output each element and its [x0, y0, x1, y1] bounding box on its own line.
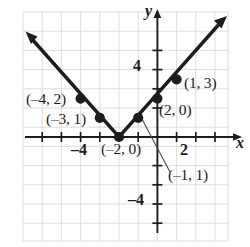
- point-label-neg4-2: (–4, 2): [26, 90, 66, 108]
- point-label-2-0: (2, 0): [159, 101, 191, 119]
- coordinate-plane: [0, 0, 250, 247]
- point-neg4-2: [76, 94, 86, 104]
- point-neg3-1: [95, 113, 105, 123]
- curve-arrowheads: [26, 16, 228, 44]
- point-neg1-1: [133, 113, 143, 123]
- point-label-neg1-1: (–1, 1): [168, 166, 208, 184]
- x-axis-label: x: [236, 134, 244, 152]
- y-tick-label-neg4: –4: [128, 191, 144, 209]
- x-tick-label-2: 2: [180, 141, 188, 159]
- point-1-3: [172, 74, 182, 84]
- point-label-neg2-0: (–2, 0): [101, 140, 141, 158]
- point-label-1-3: (1, 3): [184, 74, 216, 92]
- x-tick-label-neg4: –4: [71, 141, 87, 159]
- graph-figure: 4 –4 –4 2 y x (–4, 2) (–3, 1) (–2, 0) (–…: [0, 0, 250, 247]
- point-label-neg3-1: (–3, 1): [46, 110, 86, 128]
- y-axis-label: y: [145, 2, 152, 20]
- y-tick-label-4: 4: [133, 57, 141, 75]
